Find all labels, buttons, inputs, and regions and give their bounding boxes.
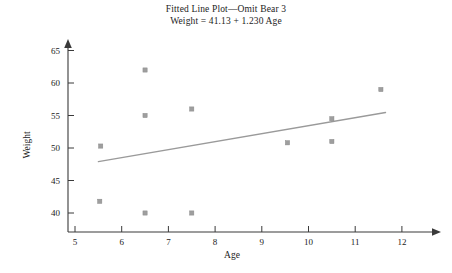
y-tick-label: 55 <box>51 111 61 121</box>
x-axis-arrow-icon <box>432 228 441 236</box>
data-point <box>190 107 194 111</box>
data-point <box>190 211 194 215</box>
x-tick-group: 56789101112 <box>73 226 407 247</box>
regression-fit-line <box>98 113 385 162</box>
data-point <box>98 199 102 203</box>
x-tick-label: 5 <box>73 237 78 247</box>
y-tick-label: 60 <box>51 78 61 88</box>
y-tick-label: 40 <box>51 208 61 218</box>
y-axis-arrow-icon <box>64 39 72 48</box>
x-tick-label: 10 <box>304 237 314 247</box>
fit-line-group <box>98 113 385 162</box>
data-point <box>99 144 103 148</box>
x-tick-label: 12 <box>397 237 406 247</box>
x-tick-label: 11 <box>351 237 360 247</box>
data-point <box>143 211 147 215</box>
data-point <box>143 68 147 72</box>
y-tick-group: 404550556065 <box>51 46 74 219</box>
y-tick-label: 50 <box>51 143 61 153</box>
y-tick-label: 65 <box>51 46 61 56</box>
x-tick-label: 7 <box>166 237 171 247</box>
y-axis-title: Weight <box>22 131 32 159</box>
axes-group <box>64 39 441 236</box>
data-point <box>285 141 289 145</box>
x-axis-title: Age <box>224 250 240 260</box>
chart-canvas: 56789101112 404550556065 Age Weight <box>0 0 452 273</box>
x-tick-label: 9 <box>260 237 265 247</box>
data-point <box>143 113 147 117</box>
y-tick-label: 45 <box>51 176 61 186</box>
data-point <box>330 117 334 121</box>
data-point <box>379 87 383 91</box>
x-tick-label: 8 <box>213 237 218 247</box>
fitted-line-plot: Fitted Line Plot—Omit Bear 3 Weight = 41… <box>0 0 452 273</box>
x-tick-label: 6 <box>119 237 124 247</box>
data-points-group <box>98 68 383 215</box>
data-point <box>330 139 334 143</box>
